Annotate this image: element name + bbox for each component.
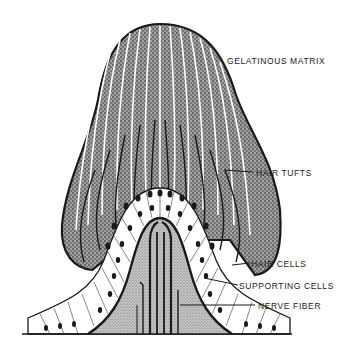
label-gelatinous-matrix: GELATINOUS MATRIX: [227, 56, 325, 66]
label-nerve-fiber: NERVE FIBER: [258, 301, 321, 311]
label-hair-cells: HAIR CELLS: [251, 259, 307, 269]
label-hair-tufts: HAIR TUFTS: [256, 168, 312, 178]
diagram: GELATINOUS MATRIX HAIR TUFTS HAIR CELLS …: [0, 0, 344, 354]
label-supporting-cells: SUPPORTING CELLS: [239, 281, 334, 291]
